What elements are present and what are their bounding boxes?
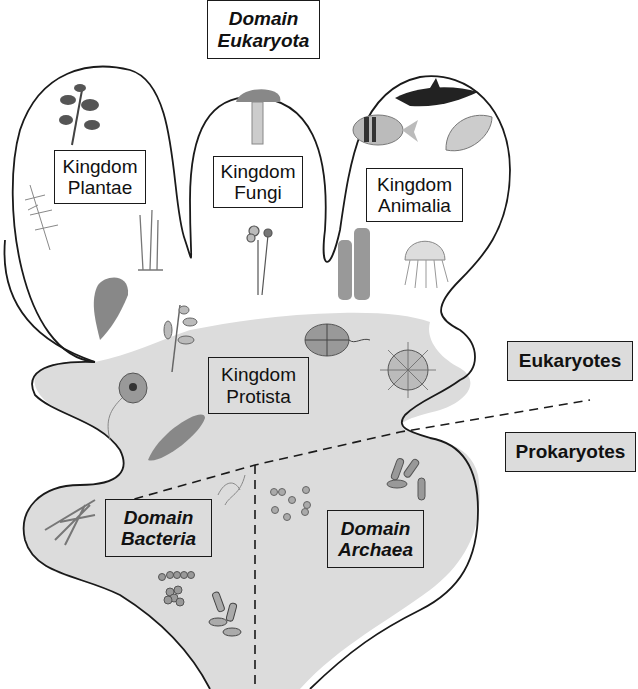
radiolarian-icon bbox=[380, 342, 436, 398]
domain-bacteria-label: Domain Bacteria bbox=[105, 499, 212, 557]
seaweed-frond-icon bbox=[94, 277, 128, 340]
jellyfish-icon bbox=[405, 241, 448, 288]
clam-icon bbox=[446, 115, 492, 151]
moss-icon bbox=[138, 210, 163, 270]
kingdom-fungi-label: Kingdom Fungi bbox=[213, 156, 303, 208]
tube-sponge-icon bbox=[338, 228, 370, 300]
leafy-plant-icon bbox=[59, 84, 100, 145]
kingdom-animalia-label: Kingdom Animalia bbox=[366, 168, 463, 222]
kingdom-plantae-label: Kingdom Plantae bbox=[54, 150, 146, 204]
title-line2: Eukaryota bbox=[218, 30, 310, 51]
domain-archaea-label: Domain Archaea bbox=[327, 510, 424, 568]
slime-mold-icon bbox=[247, 226, 272, 295]
eukaryotes-label: Eukaryotes bbox=[507, 341, 633, 381]
kingdom-protista-label: Kingdom Protista bbox=[208, 357, 309, 414]
prokaryotes-label: Prokaryotes bbox=[505, 432, 636, 472]
mushroom-icon bbox=[236, 89, 280, 144]
tropical-fish-icon bbox=[353, 115, 418, 145]
title-line1: Domain bbox=[229, 8, 299, 29]
orca-icon bbox=[395, 78, 478, 106]
domain-eukaryota-label: Domain Eukaryota bbox=[207, 0, 320, 59]
